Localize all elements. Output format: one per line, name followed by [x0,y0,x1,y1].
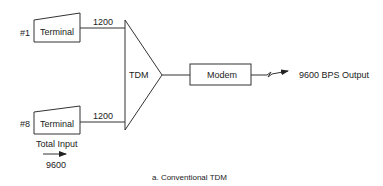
total-input-label: Total Input [36,139,78,149]
terminal-8: #8 Terminal [20,106,80,134]
terminal-8-rate: 1200 [93,111,113,121]
diagram-caption: a. Conventional TDM [152,173,227,182]
terminal-8-label: Terminal [40,119,74,129]
terminal-1-id: #1 [20,28,30,38]
tdm-label: TDM [129,70,149,80]
tdm-multiplexer: TDM [125,20,162,130]
output-arrow [251,71,288,77]
terminal-1-label: Terminal [40,27,74,37]
output-label: 9600 BPS Output [299,70,370,80]
terminal-8-id: #8 [20,119,30,129]
total-input-value: 9600 [46,160,66,170]
modem-label: Modem [207,70,237,80]
conventional-tdm-diagram: #1 Terminal 1200 #8 Terminal 1200 TDM Mo… [0,0,383,186]
diagram-svg: #1 Terminal 1200 #8 Terminal 1200 TDM Mo… [0,0,383,186]
terminal-1-rate: 1200 [93,17,113,27]
modem: Modem [190,64,251,85]
terminal-1: #1 Terminal [20,13,80,42]
